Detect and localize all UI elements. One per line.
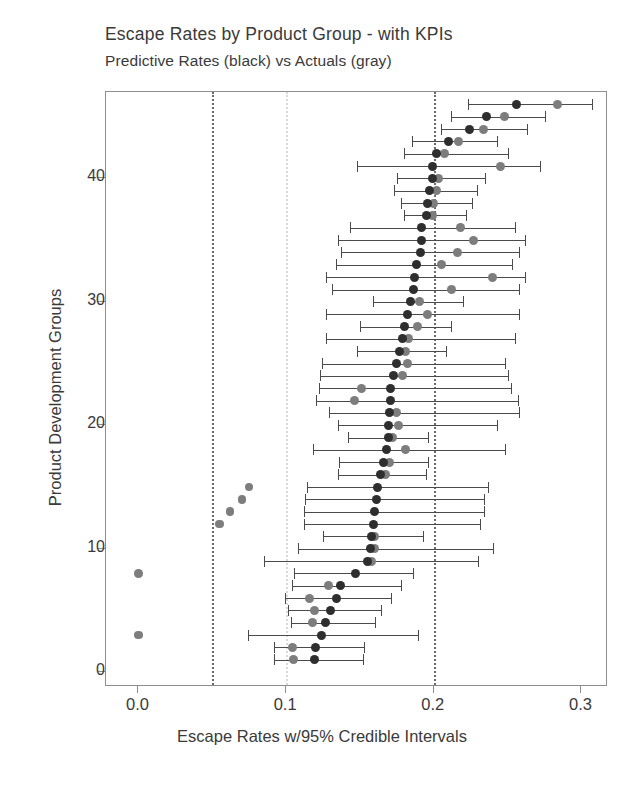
predictive-rate-point <box>403 310 412 319</box>
x-tick-label: 0.2 <box>421 695 444 714</box>
predictive-rate-point <box>465 125 474 134</box>
interval-cap-high <box>519 284 520 295</box>
interval-cap-low <box>350 222 351 233</box>
actual-rate-point <box>310 606 319 615</box>
predictive-rate-point <box>417 236 426 245</box>
y-tick-label: 40 <box>45 167 105 185</box>
actual-rate-point <box>288 643 297 652</box>
actual-rate-point <box>401 445 410 454</box>
x-tick <box>433 686 434 693</box>
predictive-rate-point <box>384 433 393 442</box>
predictive-rate-point <box>422 211 431 220</box>
interval-cap-high <box>472 198 473 209</box>
predictive-rate-point <box>351 569 360 578</box>
interval-cap-low <box>323 531 324 542</box>
interval-cap-low <box>298 543 299 554</box>
actual-rate-point <box>437 260 446 269</box>
predictive-rate-point <box>410 273 419 282</box>
credible-interval-bar <box>248 635 418 636</box>
x-tick-label: 0.0 <box>126 695 149 714</box>
interval-cap-high <box>480 519 481 530</box>
interval-cap-high <box>484 506 485 517</box>
interval-cap-low <box>326 309 327 320</box>
interval-cap-high <box>418 630 419 641</box>
y-tick <box>98 177 105 178</box>
interval-cap-high <box>375 617 376 628</box>
actual-rate-point <box>357 384 366 393</box>
x-tick <box>285 686 286 693</box>
interval-cap-high <box>497 136 498 147</box>
interval-cap-low <box>264 556 265 567</box>
interval-cap-high <box>423 531 424 542</box>
interval-cap-low <box>304 506 305 517</box>
predictive-rate-point <box>321 618 330 627</box>
credible-interval-bar <box>304 512 484 513</box>
predictive-rate-point <box>382 445 391 454</box>
interval-cap-high <box>545 111 546 122</box>
credible-interval-bar <box>307 487 489 488</box>
predictive-rate-point <box>406 297 415 306</box>
interval-cap-low <box>329 407 330 418</box>
interval-cap-high <box>363 654 364 665</box>
interval-cap-low <box>322 358 323 369</box>
actual-rate-point <box>289 655 298 664</box>
chart-subtitle: Predictive Rates (black) vs Actuals (gra… <box>105 52 625 70</box>
interval-cap-low <box>451 111 452 122</box>
predictive-rate-point <box>392 359 401 368</box>
x-axis-label: Escape Rates w/95% Credible Intervals <box>0 727 644 746</box>
interval-cap-low <box>285 593 286 604</box>
interval-cap-low <box>394 185 395 196</box>
interval-cap-high <box>426 469 427 480</box>
y-tick <box>98 548 105 549</box>
predictive-rate-point <box>372 495 381 504</box>
credible-interval-bar <box>338 240 526 241</box>
interval-cap-low <box>338 469 339 480</box>
interval-cap-low <box>441 124 442 135</box>
actual-rate-point <box>134 569 143 578</box>
interval-cap-low <box>288 605 289 616</box>
predictive-rate-point <box>512 100 521 109</box>
interval-cap-low <box>412 136 413 147</box>
interval-cap-high <box>519 407 520 418</box>
actual-rate-point <box>447 285 456 294</box>
interval-cap-low <box>348 432 349 443</box>
interval-cap-low <box>404 148 405 159</box>
interval-cap-high <box>466 210 467 221</box>
interval-cap-high <box>401 580 402 591</box>
interval-cap-high <box>428 432 429 443</box>
predictive-rate-point <box>386 396 395 405</box>
predictive-rate-point <box>370 507 379 516</box>
predictive-rate-point <box>326 606 335 615</box>
credible-interval-bar <box>316 401 518 402</box>
reference-line-0-05 <box>212 92 214 685</box>
actual-rate-point <box>324 581 333 590</box>
interval-cap-high <box>446 346 447 357</box>
interval-cap-low <box>316 395 317 406</box>
predictive-rate-point <box>416 248 425 257</box>
plot-inner <box>106 92 606 685</box>
interval-cap-high <box>512 259 513 270</box>
interval-cap-high <box>488 482 489 493</box>
interval-cap-high <box>592 99 593 110</box>
predictive-rate-point <box>379 458 388 467</box>
interval-cap-low <box>404 210 405 221</box>
interval-cap-high <box>515 222 516 233</box>
interval-cap-high <box>493 543 494 554</box>
x-tick-label: 0.1 <box>274 695 297 714</box>
actual-rate-point <box>500 112 509 121</box>
actual-rate-point <box>226 507 235 516</box>
interval-cap-low <box>320 370 321 381</box>
interval-cap-low <box>357 161 358 172</box>
chart-title: Escape Rates by Product Group - with KPI… <box>105 24 625 45</box>
predictive-rate-point <box>444 137 453 146</box>
interval-cap-high <box>519 247 520 258</box>
interval-cap-high <box>508 148 509 159</box>
interval-cap-high <box>391 593 392 604</box>
interval-cap-low <box>307 482 308 493</box>
actual-rate-point <box>415 297 424 306</box>
predictive-rate-point <box>373 483 382 492</box>
credible-interval-bar <box>341 252 520 253</box>
interval-cap-low <box>292 580 293 591</box>
actual-rate-point <box>479 125 488 134</box>
predictive-rate-point <box>425 186 434 195</box>
